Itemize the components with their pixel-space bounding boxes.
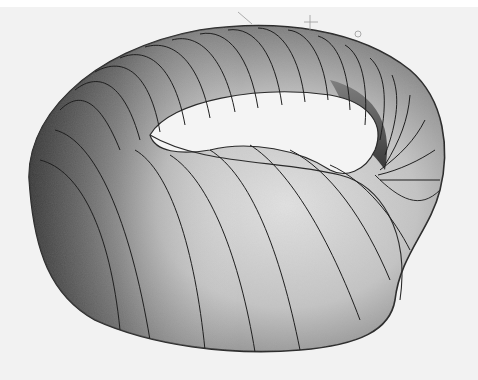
twisted-torus-drawing: [0, 0, 478, 380]
torus-body: [20, 20, 460, 360]
drawing-frame: [0, 0, 478, 380]
